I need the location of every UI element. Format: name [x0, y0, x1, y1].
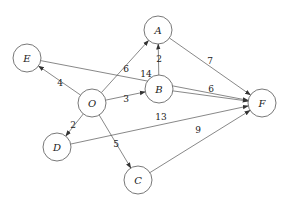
edge-weight-label: 13: [155, 112, 167, 122]
edge-weight-label: 5: [113, 139, 119, 149]
edge-weight-label: 3: [123, 94, 129, 104]
edge-weight-label: 7: [207, 56, 213, 66]
edge-weight-label: 2: [70, 120, 76, 130]
node-f: F: [248, 89, 276, 117]
node-a: A: [144, 16, 172, 44]
node-label: O: [88, 98, 96, 109]
node-label: E: [22, 53, 31, 64]
node-o: O: [78, 89, 106, 117]
node-label: B: [154, 84, 162, 95]
node-label: F: [258, 98, 267, 109]
node-d: D: [43, 133, 71, 161]
edge-weight-label: 14: [140, 69, 152, 79]
nodes-layer: EAOBFDC: [13, 16, 276, 194]
node-label: C: [134, 175, 142, 186]
node-c: C: [124, 166, 152, 194]
edge-weight-label: 4: [57, 78, 63, 88]
graph-diagram: EAOBFDC 4614237621359: [0, 0, 289, 208]
node-label: D: [52, 142, 61, 153]
node-label: A: [153, 25, 161, 36]
node-e: E: [13, 44, 41, 72]
edge-weight-label: 6: [123, 64, 129, 74]
edge-weight-label: 6: [208, 84, 214, 94]
edge-weight-label: 2: [156, 54, 162, 64]
edge-e-to-f: [41, 61, 248, 101]
arrow-line: [41, 61, 248, 101]
node-b: B: [145, 75, 173, 103]
edge-weight-label: 9: [195, 125, 201, 135]
